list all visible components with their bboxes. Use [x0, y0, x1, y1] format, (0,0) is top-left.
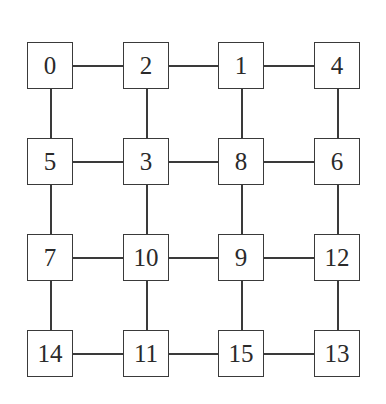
- node-box: 3: [123, 138, 169, 185]
- edge-8-9: [241, 184, 243, 235]
- edge-6-12: [337, 184, 339, 235]
- node-box: 1: [218, 42, 264, 89]
- edge-3-8: [168, 161, 219, 163]
- edge-3-10: [146, 184, 148, 235]
- edge-0-2: [72, 65, 124, 67]
- node-box: 6: [314, 138, 360, 185]
- mesh-grid-diagram: 0 2 1 4 5 3 8 6 7 10 9 12 14 11 15 13: [0, 0, 386, 404]
- node-box: 13: [314, 330, 360, 377]
- node-box: 2: [123, 42, 169, 89]
- edge-0-5: [50, 88, 52, 139]
- node-box: 15: [218, 330, 264, 377]
- node-box: 7: [27, 234, 73, 281]
- edge-9-15: [241, 280, 243, 331]
- edge-4-6: [337, 88, 339, 139]
- node-box: 5: [27, 138, 73, 185]
- node-box: 0: [27, 42, 73, 89]
- node-box: 8: [218, 138, 264, 185]
- edge-10-9: [168, 257, 219, 259]
- node-box: 10: [123, 234, 169, 281]
- edge-15-13: [263, 353, 315, 355]
- edge-1-8: [241, 88, 243, 139]
- edge-11-15: [168, 353, 219, 355]
- node-box: 12: [314, 234, 360, 281]
- node-box: 4: [314, 42, 360, 89]
- edge-12-13: [337, 280, 339, 331]
- edge-7-14: [50, 280, 52, 331]
- edge-8-6: [263, 161, 315, 163]
- node-box: 11: [123, 330, 169, 377]
- edge-1-4: [263, 65, 315, 67]
- edge-7-10: [72, 257, 124, 259]
- edge-2-1: [168, 65, 219, 67]
- edge-14-11: [72, 353, 124, 355]
- node-box: 9: [218, 234, 264, 281]
- edge-5-3: [72, 161, 124, 163]
- edge-10-11: [146, 280, 148, 331]
- node-box: 14: [27, 330, 73, 377]
- edge-9-12: [263, 257, 315, 259]
- edge-5-7: [50, 184, 52, 235]
- edge-2-3: [146, 88, 148, 139]
